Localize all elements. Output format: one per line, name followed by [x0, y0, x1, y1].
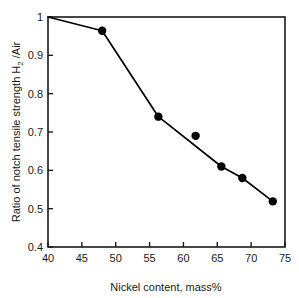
- y-axis-title-tail: /Air: [10, 41, 22, 61]
- data-point: [269, 197, 277, 205]
- x-tick-label: 55: [143, 252, 155, 264]
- series-line-group: [48, 17, 273, 201]
- series-marker-group: [98, 27, 277, 206]
- data-point: [217, 162, 225, 170]
- y-tick-label: 0.4: [28, 241, 43, 253]
- y-axis-tick-labels: 0.40.50.60.70.80.91: [28, 11, 43, 253]
- y-tick-label: 1: [37, 11, 43, 23]
- x-tick-label: 75: [279, 252, 291, 264]
- x-axis-tick-labels: 4045505560657075: [42, 252, 291, 264]
- x-tick-label: 40: [42, 252, 54, 264]
- plot-frame: [48, 17, 285, 247]
- y-tick-label: 0.5: [28, 203, 43, 215]
- x-tick-label: 50: [110, 252, 122, 264]
- x-tick-label: 70: [245, 252, 257, 264]
- data-point: [191, 132, 199, 140]
- chart-canvas: 4045505560657075 0.40.50.60.70.80.91 Nic…: [0, 0, 299, 298]
- y-tick-label: 0.7: [28, 126, 43, 138]
- data-point: [98, 27, 106, 35]
- x-tick-label: 65: [211, 252, 223, 264]
- chart-figure: 4045505560657075 0.40.50.60.70.80.91 Nic…: [0, 0, 299, 298]
- x-axis-title: Nickel content, mass%: [110, 281, 221, 293]
- y-tick-label: 0.6: [28, 164, 43, 176]
- y-tick-label: 0.8: [28, 88, 43, 100]
- x-tick-label: 60: [177, 252, 189, 264]
- data-point: [154, 112, 162, 120]
- x-tick-label: 45: [76, 252, 88, 264]
- y-tick-label: 0.9: [28, 49, 43, 61]
- data-point: [238, 174, 246, 182]
- series-line: [48, 17, 273, 201]
- y-axis-title: Ratio of notch tensile strength H2 /Air: [10, 41, 25, 222]
